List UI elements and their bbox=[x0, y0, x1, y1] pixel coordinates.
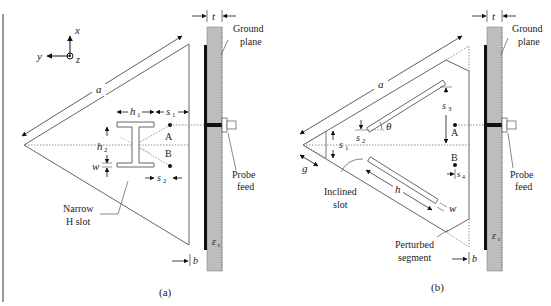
svg-text:B: B bbox=[451, 152, 458, 163]
svg-text:1: 1 bbox=[137, 111, 141, 119]
caption-a: (a) bbox=[159, 286, 172, 299]
h-slot bbox=[117, 122, 154, 167]
label-ground-plane-b: Ground bbox=[512, 23, 543, 34]
svg-text:plane: plane bbox=[240, 36, 262, 47]
label-h: h bbox=[395, 183, 401, 195]
label-b-b: b bbox=[472, 253, 477, 264]
caption-b: (b) bbox=[431, 281, 444, 294]
svg-text:feed: feed bbox=[515, 181, 532, 192]
svg-text:A: A bbox=[165, 131, 173, 142]
svg-text:H slot: H slot bbox=[66, 216, 90, 227]
diagram-canvas: x y z a h 1 s 1 h 2 w bbox=[0, 0, 551, 306]
label-t-b: t bbox=[492, 10, 496, 22]
label-narrow-h-slot: Narrow bbox=[63, 203, 94, 214]
feed-point-a bbox=[168, 123, 172, 127]
label-probe-feed: Probe bbox=[232, 169, 256, 180]
label-t: t bbox=[212, 10, 216, 22]
label-s4: s bbox=[457, 169, 461, 179]
svg-text:2: 2 bbox=[163, 177, 167, 185]
inclined-slot-lower bbox=[368, 157, 438, 204]
label-w: w bbox=[92, 160, 100, 172]
label-h2: h bbox=[97, 140, 103, 152]
axis-z-label: z bbox=[75, 54, 80, 65]
probe-pin-b bbox=[484, 123, 502, 127]
svg-text:plane: plane bbox=[518, 36, 540, 47]
label-probe-feed-b: Probe bbox=[510, 169, 534, 180]
svg-text:feed: feed bbox=[237, 181, 254, 192]
svg-text:3: 3 bbox=[448, 105, 452, 113]
label-h1: h bbox=[130, 105, 136, 117]
sma-connector bbox=[222, 118, 227, 132]
svg-text:1: 1 bbox=[172, 111, 176, 119]
svg-text:A: A bbox=[451, 127, 459, 138]
triangular-patch bbox=[24, 44, 189, 245]
svg-text:2: 2 bbox=[104, 146, 108, 154]
label-er-b: ε bbox=[492, 230, 496, 241]
label-inclined-slot: Inclined bbox=[324, 186, 357, 197]
label-a: a bbox=[96, 83, 102, 95]
svg-text:2: 2 bbox=[362, 137, 366, 145]
label-s2: s bbox=[157, 172, 161, 183]
label-er: ε bbox=[212, 236, 216, 247]
svg-text:slot: slot bbox=[333, 199, 348, 210]
panel-b: a θ s 2 s 1 g s 3 A B bbox=[300, 10, 543, 294]
panel-a: x y z a h 1 s 1 h 2 w bbox=[22, 10, 264, 299]
label-s2-b: s bbox=[356, 132, 360, 143]
label-s1-b: s bbox=[339, 139, 343, 150]
substrate bbox=[207, 27, 222, 271]
label-b: b bbox=[193, 255, 198, 266]
label-s1: s bbox=[166, 105, 170, 117]
feed-point-b-b bbox=[453, 163, 457, 167]
label-w-b: w bbox=[449, 202, 457, 214]
label-g: g bbox=[302, 162, 308, 174]
axis-x-label: x bbox=[74, 24, 80, 36]
coordinate-axes-icon: x y z bbox=[36, 24, 80, 65]
sma-connector-b bbox=[502, 118, 507, 132]
patch-edge bbox=[204, 45, 207, 250]
patch-edge-b bbox=[484, 45, 487, 250]
axis-y-label: y bbox=[36, 50, 42, 62]
svg-text:B: B bbox=[165, 148, 172, 159]
svg-text:segment: segment bbox=[398, 252, 432, 263]
probe-pin bbox=[204, 123, 222, 127]
label-ground-plane: Ground bbox=[233, 23, 264, 34]
feed-point-b bbox=[168, 164, 172, 168]
label-perturbed-segment: Perturbed bbox=[395, 239, 434, 250]
label-a-b: a bbox=[378, 78, 384, 90]
svg-text:1: 1 bbox=[345, 144, 349, 152]
svg-text:4: 4 bbox=[462, 174, 465, 180]
label-theta: θ bbox=[386, 120, 392, 132]
label-s3: s bbox=[442, 100, 446, 111]
